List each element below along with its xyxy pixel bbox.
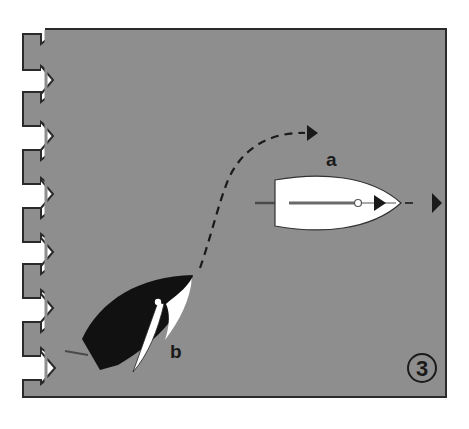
sailing-diagram: a b 3 (0, 0, 469, 429)
figure-number: 3 (416, 356, 428, 381)
label-a: a (326, 149, 337, 170)
label-b: b (170, 341, 182, 362)
boat-a-mast (355, 200, 362, 207)
boat-b-mast (155, 299, 161, 305)
wind-arrow-icon (23, 380, 46, 397)
